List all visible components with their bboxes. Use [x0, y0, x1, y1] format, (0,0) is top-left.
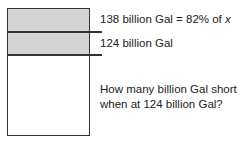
label-138-text: 138 billion Gal = 82% of [100, 13, 225, 25]
variable-x: x [225, 13, 231, 25]
divider-138 [7, 31, 102, 33]
question-line-1: How many billion Gal short [100, 82, 250, 97]
divider-124 [7, 54, 102, 56]
label-138: 138 billion Gal = 82% of x [100, 12, 231, 26]
question-text: How many billion Gal short when at 124 b… [100, 82, 250, 112]
question-line-2: when at 124 billion Gal? [100, 97, 250, 112]
label-124: 124 billion Gal [100, 36, 173, 50]
